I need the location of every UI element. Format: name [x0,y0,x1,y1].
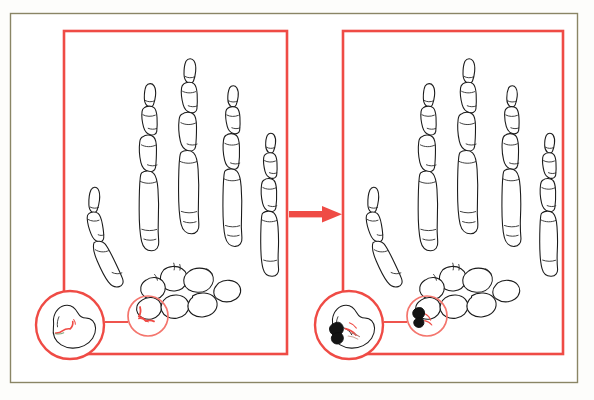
figure-stage: Carpal bone fracture before and after su… [0,0,594,400]
medical-illustration: Carpal bone fracture before and after su… [0,0,594,400]
magnified-fixation-inset [315,291,383,359]
magnified-fracture-inset [36,291,104,359]
